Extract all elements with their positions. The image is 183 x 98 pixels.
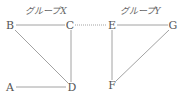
group-y-title: グループY (120, 7, 161, 16)
edge-f-g (116, 30, 169, 81)
node-d: D (68, 82, 77, 93)
edge-b-d (15, 30, 68, 83)
node-g: G (169, 20, 178, 31)
node-f: F (108, 80, 116, 91)
node-c: C (66, 20, 74, 31)
node-a: A (6, 82, 14, 93)
group-x-title: グループX (25, 7, 66, 16)
node-b: B (6, 20, 14, 31)
node-e: E (108, 20, 116, 31)
